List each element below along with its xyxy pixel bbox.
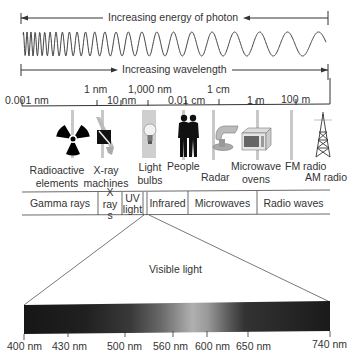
source-label-light-bulbs: Light bulbs xyxy=(134,161,166,186)
source-label-radioactive: Radioactive elements xyxy=(22,164,92,189)
energy-arrow-label: Increasing energy of photon xyxy=(108,12,238,23)
source-label-xray: X-ray machines xyxy=(83,164,129,189)
visible-light-title: Visible light xyxy=(149,264,202,275)
visible-tick-500: 500 nm xyxy=(107,340,142,352)
band-radio-waves: Radio waves xyxy=(257,193,330,215)
band-x-rays: X rays xyxy=(98,193,122,215)
visible-tick-650: 650 nm xyxy=(236,340,271,352)
scale-label-1cm: 1 cm xyxy=(207,84,230,95)
band-infrared: Infrared xyxy=(147,193,188,215)
scale-label-001cm: 0.01 cm xyxy=(168,95,205,106)
visible-tick-600: 600 nm xyxy=(195,340,230,352)
visible-tick-430: 430 nm xyxy=(52,340,87,352)
source-label-radar: Radar xyxy=(201,172,230,183)
scale-label-100m: 100 m xyxy=(281,94,310,105)
band-uv-light: UV light xyxy=(122,193,143,215)
scale-label-0001nm: 0.001 nm xyxy=(5,95,49,106)
band-microwaves: Microwaves xyxy=(188,193,257,215)
xray-machine-icon xyxy=(94,117,118,157)
radio-tower-icon xyxy=(312,112,334,158)
source-label-people: People xyxy=(167,161,200,172)
scale-label-1000nm: 1,000 nm xyxy=(128,84,172,95)
radioactive-icon xyxy=(56,122,90,156)
visible-tick-740: 740 nm xyxy=(312,338,347,350)
people-icon xyxy=(178,114,200,158)
visible-spectrum-bar xyxy=(24,301,330,334)
scale-label-1m: 1 m xyxy=(247,95,265,106)
radar-icon xyxy=(210,123,240,153)
scale-label-1nm: 1 nm xyxy=(84,84,107,95)
scale-label-10nm: 10 nm xyxy=(107,95,136,106)
light-bulb-icon xyxy=(143,122,157,148)
source-label-fm-radio: FM radio xyxy=(285,161,326,172)
wavelength-arrow-label: Increasing wavelength xyxy=(122,64,226,75)
visible-tick-400: 400 nm xyxy=(7,340,42,352)
source-label-microwave-ovens: Microwave ovens xyxy=(228,160,284,185)
visible-tick-560: 560 nm xyxy=(153,340,188,352)
source-label-am-radio: AM radio xyxy=(305,172,347,183)
band-gamma-rays: Gamma rays xyxy=(22,193,98,215)
wave-icon xyxy=(23,32,326,56)
microwave-oven-icon xyxy=(240,127,272,151)
